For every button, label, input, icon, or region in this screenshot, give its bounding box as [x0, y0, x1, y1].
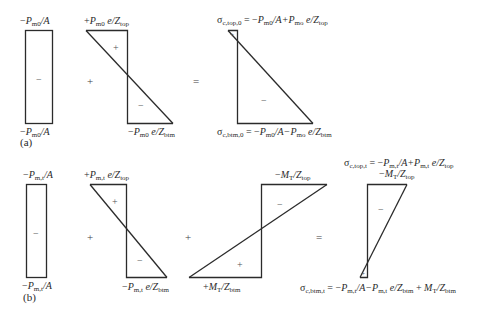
a-axial-minus-sign: − [36, 75, 42, 85]
b-moment-minus-sign: − [277, 200, 283, 210]
b-axial-bottom-label: −Pm,t/A [22, 280, 52, 291]
b-result-plus-sign: + [361, 269, 365, 279]
a-eccentric-plus-sign: + [113, 43, 119, 53]
a-result-plus-sign: + [230, 30, 234, 40]
a-eccentric-top-label: +Pm0 e/Ztop [84, 15, 129, 26]
a-result-minus-sign: − [261, 96, 267, 106]
a-eccentric-diagonal [86, 31, 173, 124]
a-result-bottom-label: σc,btm,0 = −Pm0/A−Pmo e/Zbtm [217, 126, 332, 137]
b-plus-operator-2: + [185, 232, 191, 243]
a-eccentric-minus-sign: − [138, 101, 144, 111]
b-moment-top-label: −MT/Ztop [275, 169, 311, 180]
a-equals-operator: = [193, 76, 199, 87]
b-result-minus-sign: − [378, 205, 384, 215]
b-result-top-label-line2: −MT/Ztop [379, 168, 415, 179]
a-eccentric-bottom-label: −Pm0 e/Zbtm [128, 126, 175, 137]
a-result-top-label: σc,top,0 = −Pm0/A+Pmo e/Ztop [217, 14, 328, 25]
b-result-bottom-label: σc,btm,t = −Pm,t/A−Pm,t e/Zbtm + MT/Zbtm [300, 282, 456, 293]
b-moment-plus-sign: + [237, 260, 243, 270]
part-b-tag: (b) [23, 291, 36, 303]
b-eccentric-top-label: +Pm,t e/Ztop [84, 169, 129, 180]
b-axial-minus-sign: − [33, 229, 39, 239]
b-eccentric-minus-sign: − [137, 256, 143, 266]
b-eccentric-bottom-label: −Pm,t e/Zbtm [122, 281, 169, 292]
b-moment-bottom-label: +MT/Zbtm [203, 281, 241, 292]
part-a-tag: (a) [20, 136, 32, 148]
b-equals-operator: = [316, 232, 322, 243]
b-moment-diagonal [189, 185, 327, 278]
b-plus-operator-1: + [87, 232, 93, 243]
b-eccentric-plus-sign: + [112, 197, 118, 207]
a-axial-top-label: −Pm0/A [20, 15, 50, 26]
b-axial-top-label: −Pm,t/A [23, 169, 53, 180]
a-plus-operator: + [87, 76, 93, 87]
b-eccentric-diagonal [90, 185, 167, 278]
b-result-top-label-line1: σc,top,t = −Pm,t/A+Pm,t e/Ztop [344, 157, 454, 168]
a-result-diagonal [228, 31, 313, 124]
